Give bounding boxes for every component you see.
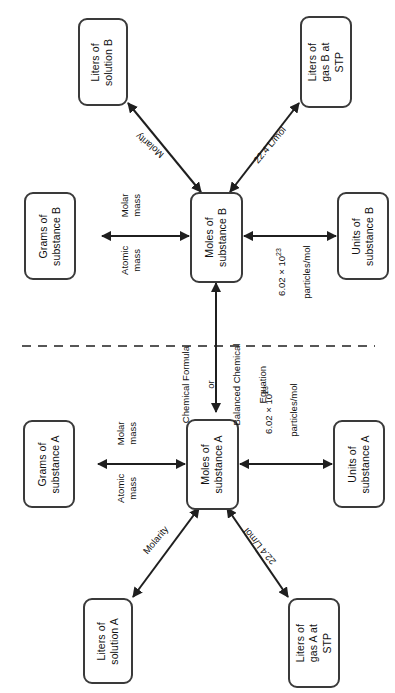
node-liters-solution-b[interactable]: Liters of solution B [78,18,128,106]
avogadro-b-coefficient: 6.02 × 10 [277,256,288,296]
avogadro-a-coefficient: 6.02 × 10 [264,394,275,434]
edge-label-molar-mass-a: Molar mass [115,410,140,456]
node-liters-solution-a-label: Liters of solution A [95,618,122,665]
node-grams-b[interactable]: Grams of substance B [24,192,76,280]
node-units-b-label: Units of substance B [350,207,377,266]
edge-label-atomic-mass-b: Atomic mass [119,237,144,283]
node-liters-solution-a[interactable]: Liters of solution A [83,598,133,684]
avogadro-a-exponent: 23 [263,386,270,394]
node-liters-gas-b[interactable]: Liters of gas B at STP [300,16,352,108]
avogadro-b-units: particles/mol [301,245,312,298]
node-units-b[interactable]: Units of substance B [337,192,389,280]
node-liters-gas-a-label: Liters of gas A at STP [294,624,334,662]
avogadro-b-exponent: 23 [276,248,283,256]
node-liters-solution-b-label: Liters of solution B [90,38,117,85]
edge-label-avogadro-a: 6.02 × 1023 particles/mol [251,375,300,451]
bridge-line-1: Chemical Formula [180,346,191,423]
edge-label-molar-mass-b: Molar mass [119,182,144,228]
edge-label-atomic-mass-a: Atomic mass [115,465,140,511]
node-moles-b-label: Moles of substance B [203,208,230,267]
node-liters-gas-b-label: Liters of gas B at STP [306,42,346,81]
node-grams-b-label: Grams of substance B [37,207,64,266]
node-moles-b[interactable]: Moles of substance B [190,192,243,283]
bridge-line-3: Balanced Chemical [231,344,242,426]
node-units-a-label: Units of substance A [346,435,373,493]
node-grams-a-label: Grams of substance A [36,435,63,493]
edge-liters-solution-b-moles-b [128,103,201,192]
edge-label-avogadro-b: 6.02 × 1023 particles/mol [264,237,313,313]
node-units-a[interactable]: Units of substance A [333,420,385,508]
avogadro-a-units: particles/mol [288,383,299,436]
node-liters-gas-a[interactable]: Liters of gas A at STP [288,598,340,688]
node-grams-a[interactable]: Grams of substance A [23,420,75,508]
bridge-line-2: or [205,380,216,388]
